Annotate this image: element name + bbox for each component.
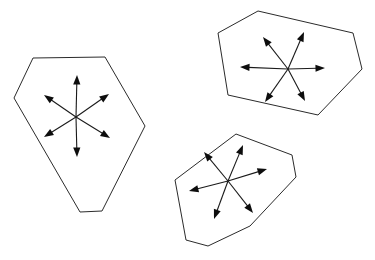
left-polygon-arrow-lower-left [44, 117, 76, 137]
left-polygon-arrow-up [73, 75, 80, 117]
left-polygon-arrow-lower-right-shaft [76, 117, 103, 134]
top-right-polygon-arrow-lower-right [288, 69, 305, 101]
bottom-right-polygon-arrow-lower-right [228, 181, 253, 213]
left-polygon-arrow-upper-right [76, 94, 109, 117]
bottom-right-polygon-arrow-right [228, 168, 267, 181]
left-polygon-arrow-down-shaft [76, 117, 77, 149]
left-polygon-arrow-upper-right-head [99, 94, 109, 102]
diagram-svg [0, 0, 375, 260]
left-polygon-arrow-lower-right-head [100, 130, 110, 138]
bottom-right-polygon-arrow-upper-left [204, 152, 228, 181]
left-polygon-arrow-upper-left-head [44, 95, 54, 103]
bottom-right-polygon-arrow-upper-right [228, 145, 243, 181]
bottom-right-polygon-arrow-upper-left-shaft [209, 158, 228, 181]
left-polygon-arrow-upper-left-shaft [51, 100, 76, 117]
shapes-layer [14, 11, 362, 246]
bottom-right-polygon-arrow-lower-left-shaft [217, 181, 228, 211]
top-right-polygon [218, 11, 362, 115]
bottom-right-polygon-arrow-left-shaft [197, 181, 228, 189]
top-right-polygon-arrow-upper-right-head [297, 32, 304, 42]
top-right-polygon-arrow-left [240, 64, 288, 71]
top-right-polygon-arrow-left-shaft [248, 67, 288, 69]
top-right-polygon-arrow-upper-right [288, 32, 304, 69]
left-polygon-arrow-lower-left-shaft [51, 117, 76, 133]
bottom-right-polygon-arrow-right-head [257, 168, 267, 175]
bottom-right-polygon [175, 134, 296, 246]
top-right-polygon-arrow-right [288, 65, 325, 72]
bottom-right-polygon-arrow-left [189, 181, 228, 192]
left-polygon-outline [14, 57, 145, 212]
left-polygon-arrow-lower-left-head [44, 129, 54, 137]
bottom-right-polygon-arrow-upper-right-head [236, 145, 243, 155]
top-right-polygon-arrow-lower-left-shaft [270, 69, 288, 95]
top-right-polygon-arrow-upper-left-head [263, 37, 272, 47]
left-polygon-arrow-down-head [73, 147, 80, 157]
top-right-polygon-arrow-lower-right-shaft [288, 69, 301, 94]
top-right-polygon-arrow-upper-left [263, 37, 288, 69]
bottom-right-polygon-arrow-lower-left [214, 181, 228, 219]
diagram-canvas [0, 0, 375, 260]
top-right-polygon-arrow-upper-left-shaft [268, 43, 288, 69]
left-polygon-arrow-down [73, 117, 80, 157]
top-right-polygon-arrow-right-shaft [288, 68, 317, 69]
bottom-right-polygon-arrow-lower-right-head [244, 203, 253, 213]
bottom-right-polygon-arrow-left-head [189, 185, 199, 192]
top-right-polygon-arrow-left-head [240, 64, 250, 71]
left-polygon-arrow-up-head [73, 75, 80, 85]
left-polygon [14, 57, 145, 212]
top-right-polygon-arrow-lower-left [265, 69, 288, 102]
left-polygon-arrow-lower-right [76, 117, 110, 138]
top-right-polygon-arrow-right-head [315, 65, 325, 72]
bottom-right-polygon-arrow-right-shaft [228, 171, 259, 181]
top-right-polygon-arrow-lower-right-head [297, 91, 305, 101]
left-polygon-arrow-up-shaft [76, 83, 77, 117]
bottom-right-polygon-arrow-lower-right-shaft [228, 181, 248, 207]
left-polygon-arrow-upper-right-shaft [76, 99, 102, 117]
left-polygon-arrow-upper-left [44, 95, 76, 117]
top-right-polygon-arrow-upper-right-shaft [288, 39, 301, 69]
top-right-polygon-arrow-lower-left-head [265, 92, 273, 102]
bottom-right-polygon-arrow-lower-left-head [214, 209, 221, 219]
bottom-right-polygon-arrow-upper-right-shaft [228, 152, 240, 181]
